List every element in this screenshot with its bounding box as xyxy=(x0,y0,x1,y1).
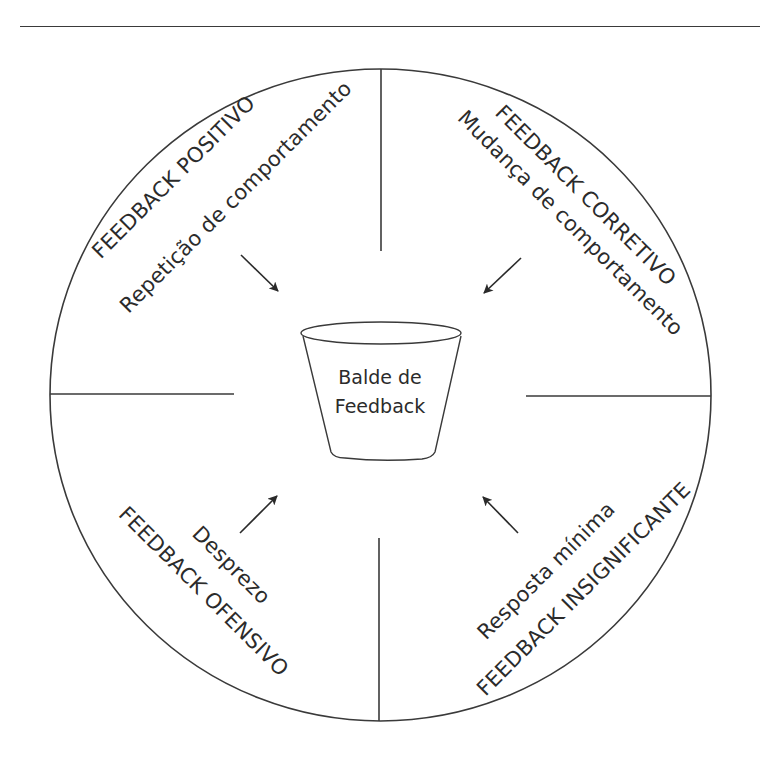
bucket-label-line1: Balde de xyxy=(300,363,460,392)
arrow-top-left-icon xyxy=(241,255,278,291)
bucket-label-line2: Feedback xyxy=(300,392,460,421)
arrow-top-right-icon xyxy=(484,258,521,293)
arrow-bottom-right-icon xyxy=(483,497,518,533)
arrow-bottom-left-icon xyxy=(240,496,277,533)
bucket-label: Balde de Feedback xyxy=(300,363,460,421)
